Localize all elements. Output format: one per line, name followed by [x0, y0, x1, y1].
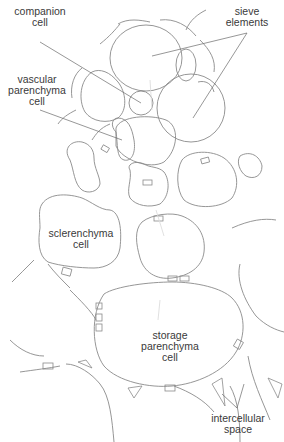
- wall-left-side: [12, 260, 96, 320]
- label-sclerenchyma-cell: sclerenchyma cell: [48, 228, 114, 250]
- cell-right-small: [238, 154, 262, 178]
- intercellular-space-2: [128, 386, 142, 398]
- cell-mid-left: [129, 162, 169, 206]
- intercellular-space-3: [212, 378, 225, 406]
- intercellular-space-1: [78, 360, 92, 368]
- leader-sieve-top: [152, 33, 247, 56]
- flow-arrow-2: [156, 210, 164, 236]
- outer-wall-top: [100, 10, 214, 92]
- pit-3: [201, 157, 210, 164]
- pit-9: [96, 324, 102, 331]
- leader-vascular-parenchyma: [40, 110, 122, 140]
- cell-center-lower: [137, 214, 205, 278]
- pit-8: [96, 314, 102, 321]
- pit-2: [143, 180, 152, 185]
- label-line: cell: [140, 352, 200, 363]
- pit-7: [61, 267, 72, 276]
- label-sieve-elements: sieve elements: [222, 6, 272, 28]
- label-storage-parenchyma-cell: storage parenchyma cell: [140, 330, 200, 363]
- sieve-element-top: [110, 25, 182, 91]
- intercellular-space-4: [268, 378, 282, 398]
- tissue-diagram: [0, 0, 284, 442]
- label-line: elements: [222, 17, 272, 28]
- label-vascular-parenchyma-cell: vascular parenchyma cell: [8, 74, 66, 107]
- cell-left-upper: [81, 70, 125, 121]
- label-line: cell: [48, 239, 114, 250]
- label-companion-cell: companion cell: [12, 6, 68, 28]
- label-line: cell: [12, 17, 68, 28]
- label-intercellular-space: intercellular space: [210, 413, 266, 435]
- vascular-parenchyma-cell: [67, 142, 100, 192]
- label-line: space: [210, 424, 266, 435]
- small-cell-top-right: [176, 49, 196, 81]
- cell-mid-right: [178, 152, 237, 206]
- flow-arrow-3: [158, 300, 160, 320]
- pit-1: [101, 145, 110, 153]
- pit-6: [180, 276, 189, 281]
- label-line: cell: [8, 96, 66, 107]
- leader-intercellular-2: [237, 384, 244, 408]
- cell-center-oval: [116, 117, 176, 165]
